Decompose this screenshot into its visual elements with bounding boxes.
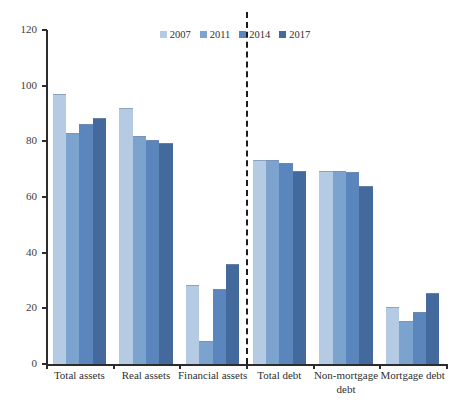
x-label-line-0: Total debt	[242, 368, 317, 382]
y-tick-label-0: 0	[32, 358, 38, 369]
x-label-line-0: Non-mortgage	[309, 368, 384, 382]
bar-group-non-mortgage-debt	[319, 30, 372, 364]
bar-group-financial-assets	[186, 30, 239, 364]
bar-2017-total-assets[interactable]	[93, 118, 106, 364]
bar-2007-financial-assets[interactable]	[186, 285, 199, 364]
x-label-line-1: debt	[309, 382, 384, 396]
bar-group-real-assets	[119, 30, 172, 364]
bar-2014-mortgage-debt[interactable]	[413, 312, 426, 364]
bar-2011-real-assets[interactable]	[133, 136, 146, 364]
y-tick-label-60: 60	[26, 191, 37, 202]
bar-2007-non-mortgage-debt[interactable]	[319, 171, 332, 364]
bar-group-total-debt	[253, 30, 306, 364]
bar-2017-total-debt[interactable]	[293, 171, 306, 364]
bar-group-mortgage-debt	[386, 30, 439, 364]
y-tick-label-40: 40	[26, 246, 37, 257]
bar-2011-non-mortgage-debt[interactable]	[333, 171, 346, 364]
y-tick-100: 100	[42, 85, 47, 87]
bar-chart: 2007 2011 2014 2017 020406080100120 Tota…	[0, 0, 460, 418]
x-label-financial-assets: Financial assets	[175, 368, 250, 382]
y-tick-20: 20	[42, 307, 47, 309]
plot-area: 020406080100120	[46, 30, 446, 364]
assets-debt-divider	[246, 12, 248, 364]
y-tick-label-120: 120	[21, 24, 38, 35]
y-tick-80: 80	[42, 140, 47, 142]
x-label-total-assets: Total assets	[42, 368, 117, 382]
bar-2007-total-assets[interactable]	[53, 94, 66, 364]
bar-2017-financial-assets[interactable]	[226, 264, 239, 364]
x-label-real-assets: Real assets	[109, 368, 184, 382]
bar-2014-non-mortgage-debt[interactable]	[346, 172, 359, 364]
bar-2014-real-assets[interactable]	[146, 140, 159, 364]
bar-2011-total-debt[interactable]	[266, 160, 279, 364]
x-label-line-0: Financial assets	[175, 368, 250, 382]
x-label-non-mortgage-debt: Non-mortgagedebt	[309, 368, 384, 396]
y-tick-60: 60	[42, 196, 47, 198]
y-tick-label-100: 100	[21, 79, 38, 90]
bar-2011-financial-assets[interactable]	[199, 341, 212, 364]
x-label-line-0: Total assets	[42, 368, 117, 382]
x-label-mortgage-debt: Mortgage debt	[375, 368, 450, 382]
bar-2014-financial-assets[interactable]	[213, 289, 226, 364]
bar-group-total-assets	[53, 30, 106, 364]
y-tick-40: 40	[42, 252, 47, 254]
y-tick-label-80: 80	[26, 135, 37, 146]
bar-2014-total-assets[interactable]	[79, 124, 92, 364]
x-label-total-debt: Total debt	[242, 368, 317, 382]
bar-2014-total-debt[interactable]	[279, 163, 292, 364]
bar-2007-total-debt[interactable]	[253, 160, 266, 364]
x-label-line-0: Real assets	[109, 368, 184, 382]
x-axis-labels: Total assetsReal assetsFinancial assetsT…	[46, 368, 446, 414]
bar-2007-real-assets[interactable]	[119, 108, 132, 364]
bar-2011-mortgage-debt[interactable]	[399, 321, 412, 364]
bar-2017-mortgage-debt[interactable]	[426, 293, 439, 364]
bar-2017-real-assets[interactable]	[159, 143, 172, 364]
bar-2017-non-mortgage-debt[interactable]	[359, 186, 372, 364]
y-tick-120: 120	[42, 29, 47, 31]
y-tick-label-20: 20	[26, 302, 37, 313]
bar-2007-mortgage-debt[interactable]	[386, 307, 399, 364]
x-label-line-0: Mortgage debt	[375, 368, 450, 382]
bar-2011-total-assets[interactable]	[66, 133, 79, 364]
